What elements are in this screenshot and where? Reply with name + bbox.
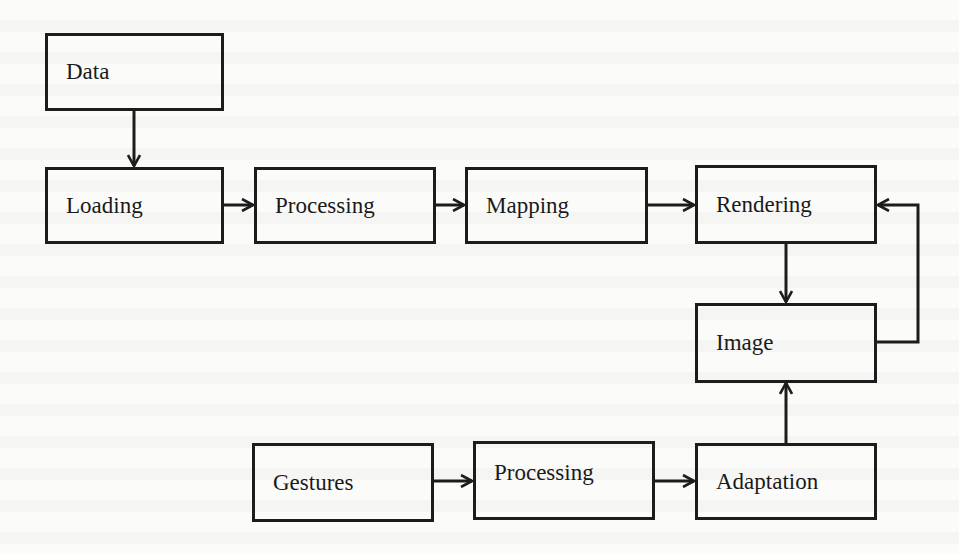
node-data: Data <box>45 33 224 111</box>
node-adaptation-label: Adaptation <box>698 469 818 495</box>
node-gestures: Gestures <box>252 443 434 522</box>
node-mapping: Mapping <box>465 167 648 244</box>
arrow-image-feedback-to-rendering <box>876 205 918 342</box>
node-gesture-processing-label: Processing <box>476 444 594 486</box>
node-loading-label: Loading <box>48 193 143 219</box>
node-processing-label: Processing <box>257 193 375 219</box>
node-loading: Loading <box>45 167 224 244</box>
node-image: Image <box>695 303 877 383</box>
node-rendering-label: Rendering <box>698 192 812 218</box>
node-adaptation: Adaptation <box>695 443 877 520</box>
node-image-label: Image <box>698 330 773 356</box>
node-rendering: Rendering <box>695 165 877 244</box>
node-gesture-processing: Processing <box>473 441 655 520</box>
node-mapping-label: Mapping <box>468 193 569 219</box>
node-data-label: Data <box>48 59 109 85</box>
flowchart-canvas: Data Loading Processing Mapping Renderin… <box>0 0 959 554</box>
node-gestures-label: Gestures <box>255 470 353 496</box>
node-processing: Processing <box>254 167 436 244</box>
